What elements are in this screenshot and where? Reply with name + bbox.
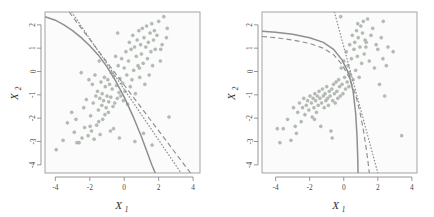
data-point <box>320 101 323 104</box>
data-point <box>119 94 122 97</box>
data-point <box>166 27 169 30</box>
data-point <box>105 94 108 97</box>
x-tick-label: 0 <box>122 183 126 192</box>
data-point <box>149 31 152 34</box>
data-point <box>161 43 164 46</box>
data-point <box>306 99 309 102</box>
data-point <box>336 97 339 100</box>
data-point <box>145 24 148 27</box>
data-point <box>99 133 102 136</box>
data-point <box>89 125 92 128</box>
data-point <box>112 127 115 130</box>
data-point <box>157 20 160 23</box>
data-point <box>350 57 353 60</box>
data-point <box>146 0 149 2</box>
data-point <box>98 59 101 62</box>
data-point <box>140 52 143 55</box>
panel-right: -4-2024210-1-2-3-4X1X2 <box>217 0 434 217</box>
data-point <box>144 45 147 48</box>
data-point <box>352 48 355 51</box>
data-point <box>125 73 128 76</box>
data-point <box>298 101 301 104</box>
data-point <box>83 126 86 129</box>
data-point <box>346 80 349 83</box>
x-tick-label: 0 <box>342 183 346 192</box>
data-point <box>355 29 358 32</box>
x-tick-label: -2 <box>87 183 93 192</box>
data-point <box>341 83 344 86</box>
data-point <box>137 29 140 32</box>
data-point <box>73 131 76 134</box>
data-point <box>130 48 133 51</box>
data-point <box>113 101 116 104</box>
y-tick-label: -2 <box>29 115 38 121</box>
y-tick-label: 0 <box>246 69 255 73</box>
data-point <box>127 59 130 62</box>
data-point <box>365 41 368 44</box>
data-point <box>80 136 83 139</box>
data-point <box>382 20 385 23</box>
data-point <box>133 140 136 143</box>
data-point <box>353 41 356 44</box>
panel-left-svg: -4-2024210-1-2-3-4X1X2 <box>0 0 217 217</box>
data-point <box>148 73 151 76</box>
data-point <box>100 104 103 107</box>
data-point <box>117 64 120 67</box>
data-point <box>364 45 367 48</box>
data-point <box>312 97 315 100</box>
data-point <box>296 111 299 114</box>
data-point <box>103 76 106 79</box>
data-point <box>360 62 363 65</box>
data-point <box>135 55 138 58</box>
data-point <box>292 106 295 109</box>
y-tick-label: -4 <box>246 161 255 167</box>
data-point <box>337 78 340 81</box>
y-tick-label: -1 <box>29 91 38 97</box>
data-point <box>302 97 305 100</box>
data-point <box>317 104 320 107</box>
data-point <box>122 99 125 102</box>
plot-panel-background <box>262 12 417 173</box>
y-tick-label: 1 <box>29 46 38 50</box>
data-point <box>138 76 141 79</box>
data-point <box>118 91 121 94</box>
data-point <box>107 111 110 114</box>
data-point <box>376 48 379 51</box>
data-point <box>381 57 384 60</box>
x-tick-label: -2 <box>307 183 313 192</box>
data-point <box>300 120 303 123</box>
data-point <box>146 57 149 60</box>
data-point <box>313 118 316 121</box>
data-point <box>128 41 131 44</box>
data-point <box>159 48 162 51</box>
data-point <box>368 59 371 62</box>
data-point <box>130 78 133 81</box>
data-point <box>97 108 100 111</box>
data-point <box>373 66 376 69</box>
data-point <box>123 66 126 69</box>
y-tick-label: -3 <box>246 138 255 144</box>
data-point <box>318 97 321 100</box>
data-point <box>310 101 313 104</box>
data-point <box>348 43 351 46</box>
data-point <box>98 97 101 100</box>
data-point <box>111 87 114 90</box>
data-point <box>286 118 289 121</box>
data-point <box>303 113 306 116</box>
data-point <box>99 80 102 83</box>
data-point <box>305 104 308 107</box>
data-point <box>70 111 73 114</box>
data-point <box>351 34 354 37</box>
data-point <box>326 97 329 100</box>
data-point <box>155 34 158 37</box>
data-point <box>142 62 145 65</box>
data-point <box>378 83 381 86</box>
y-axis-title: X <box>8 92 20 101</box>
data-point <box>329 129 332 132</box>
data-point <box>294 125 297 128</box>
data-point <box>80 71 83 74</box>
data-point <box>147 41 150 44</box>
data-point <box>143 83 146 86</box>
data-point <box>371 27 374 30</box>
data-point <box>87 78 90 81</box>
